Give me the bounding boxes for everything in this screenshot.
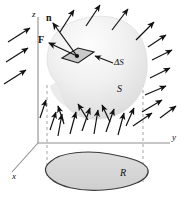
field-arrow — [136, 22, 154, 40]
field-arrow — [160, 106, 176, 118]
normal-vector-label: n — [46, 13, 52, 23]
delta-s-label: ΔS — [114, 58, 124, 67]
field-arrow — [148, 35, 166, 47]
surface-label: S — [117, 84, 122, 94]
field-arrow — [8, 28, 30, 42]
field-vector-label: F — [38, 35, 44, 45]
axis-label-y: y — [172, 133, 176, 142]
field-arrow — [4, 70, 26, 84]
field-arrow — [6, 48, 28, 62]
field-arrow — [126, 108, 134, 126]
field-arrow — [133, 113, 152, 126]
field-arrow — [40, 100, 46, 118]
field-arrow — [50, 112, 56, 130]
field-arrow — [142, 100, 162, 112]
region-shape — [46, 152, 149, 190]
field-arrow — [118, 113, 124, 135]
region-label: R — [120, 168, 126, 178]
field-arrow — [150, 68, 170, 78]
diagram-canvas — [0, 0, 182, 205]
axis-label-z: z — [32, 10, 36, 19]
field-arrow — [145, 86, 166, 95]
field-arrow — [152, 50, 172, 60]
field-arrow — [70, 112, 76, 134]
axis-label-x: x — [12, 172, 16, 181]
flux-diagram-figure: z y x n F ΔS S R — [0, 0, 182, 205]
x-axis-line — [12, 143, 38, 172]
